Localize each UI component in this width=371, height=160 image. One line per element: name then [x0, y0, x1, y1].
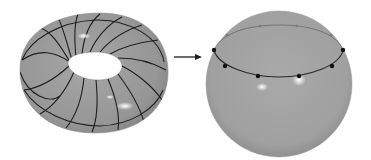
arrowhead-icon	[195, 54, 202, 60]
sphere-highlight-left	[256, 83, 268, 91]
torus-highlight-bottom	[116, 102, 134, 110]
torus-highlight-inner	[106, 95, 114, 99]
torus	[20, 13, 168, 133]
torus-surface	[20, 13, 168, 133]
figure	[0, 0, 371, 160]
sphere-surface	[206, 11, 352, 157]
sphere	[206, 11, 352, 157]
torus-highlight-top	[77, 33, 91, 39]
mapping-arrow	[174, 54, 202, 60]
